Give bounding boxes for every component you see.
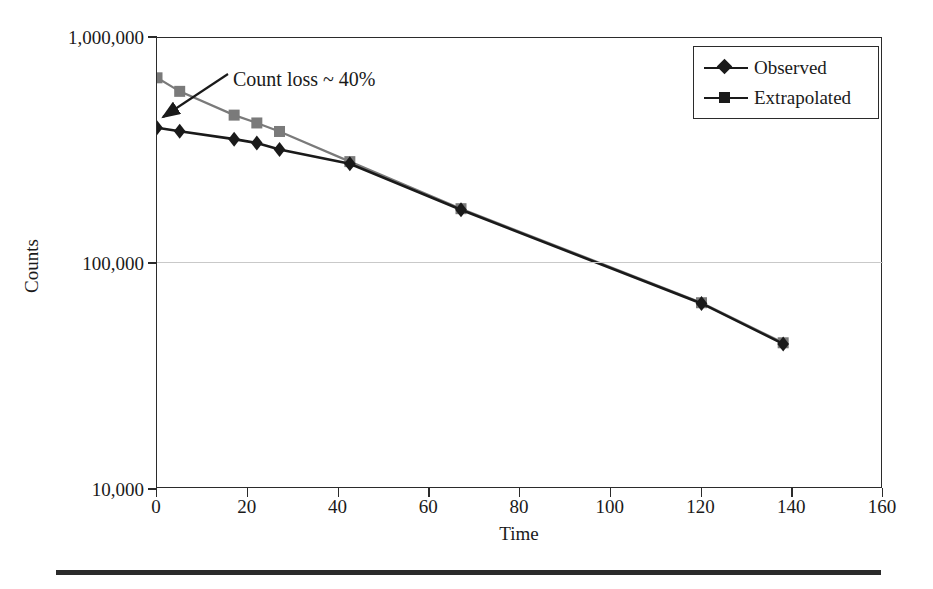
x-tick-label-20: 20 xyxy=(217,496,277,518)
data-point-observed-4 xyxy=(274,142,286,157)
y-tick-label-10000: 10,000 xyxy=(4,479,144,501)
x-tick-label-160: 160 xyxy=(852,496,912,518)
legend[interactable]: Observed Extrapolated xyxy=(693,46,879,119)
data-point-extrapolated-4 xyxy=(274,126,285,137)
gridline-100000 xyxy=(157,262,883,263)
y-axis-title: Counts xyxy=(21,216,43,316)
annotation-label: Count loss ~ 40% xyxy=(233,68,376,91)
legend-item-extrapolated[interactable]: Extrapolated xyxy=(694,83,878,113)
data-point-observed-0 xyxy=(157,120,163,135)
legend-item-observed[interactable]: Observed xyxy=(694,53,878,83)
legend-label-extrapolated: Extrapolated xyxy=(754,87,851,109)
data-point-observed-3 xyxy=(251,136,263,151)
figure-container: 1,000,000 100,000 10,000 Counts 0 20 40 … xyxy=(0,0,933,589)
x-tick-label-80: 80 xyxy=(489,496,549,518)
footer-rule xyxy=(56,570,881,575)
square-marker-icon xyxy=(704,90,748,106)
x-tick-label-60: 60 xyxy=(398,496,458,518)
x-tick-label-0: 0 xyxy=(126,496,186,518)
series-line-extrapolated xyxy=(157,78,783,343)
data-point-extrapolated-1 xyxy=(174,86,185,97)
x-tick-label-100: 100 xyxy=(580,496,640,518)
series-line-observed xyxy=(157,128,783,344)
diamond-marker-icon xyxy=(704,60,748,76)
x-axis-title: Time xyxy=(156,523,882,545)
data-point-extrapolated-3 xyxy=(251,117,262,128)
data-point-extrapolated-0 xyxy=(157,72,163,83)
x-tick-label-40: 40 xyxy=(308,496,368,518)
x-tick-label-140: 140 xyxy=(761,496,821,518)
legend-label-observed: Observed xyxy=(754,57,827,79)
data-point-observed-2 xyxy=(228,132,240,147)
x-tick-label-120: 120 xyxy=(671,496,731,518)
data-point-extrapolated-2 xyxy=(229,110,240,121)
y-tick-label-1000000: 1,000,000 xyxy=(4,27,144,49)
data-point-observed-1 xyxy=(174,124,186,139)
